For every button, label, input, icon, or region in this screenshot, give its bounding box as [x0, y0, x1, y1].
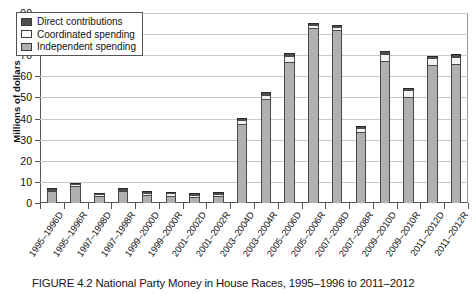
- stacked-bar[interactable]: [237, 118, 248, 203]
- bar-segment-independent-spending: [284, 62, 295, 203]
- bar-segment-independent-spending: [427, 65, 438, 203]
- legend-item-direct-contributions: Direct contributions: [21, 16, 136, 27]
- legend-swatch-icon: [21, 18, 32, 26]
- bar-segment-independent-spending: [118, 191, 129, 203]
- y-axis-tick-label: 10: [20, 176, 32, 188]
- bar-segment-independent-spending: [451, 64, 462, 203]
- bar-slot[interactable]: [206, 13, 230, 203]
- x-axis-tick: [325, 203, 326, 209]
- stacked-bar[interactable]: [118, 188, 129, 203]
- bar-slot[interactable]: [254, 13, 278, 203]
- bar-slot[interactable]: [159, 13, 183, 203]
- bar-slot[interactable]: [397, 13, 421, 203]
- y-axis-tick-label: 20: [20, 155, 32, 167]
- x-axis-tick: [159, 203, 160, 209]
- bar-segment-independent-spending: [166, 196, 177, 203]
- bar-segment-independent-spending: [403, 97, 414, 203]
- legend-swatch-icon: [21, 30, 32, 38]
- x-axis-tick: [278, 203, 279, 209]
- bar-segment-independent-spending: [47, 191, 58, 203]
- bar-slot[interactable]: [325, 13, 349, 203]
- y-axis-tick-label: 50: [20, 91, 32, 103]
- bar-segment-independent-spending: [380, 61, 391, 204]
- legend-label: Direct contributions: [37, 16, 123, 27]
- stacked-bar[interactable]: [166, 192, 177, 204]
- y-axis-tick-label: 0: [26, 197, 32, 209]
- bar-slot[interactable]: [373, 13, 397, 203]
- stacked-bar[interactable]: [308, 23, 319, 203]
- x-axis-tick: [397, 203, 398, 209]
- stacked-bar[interactable]: [70, 183, 81, 203]
- bar-segment-independent-spending: [308, 28, 319, 203]
- bar-segment-independent-spending: [237, 124, 248, 203]
- stacked-bar[interactable]: [356, 126, 367, 203]
- bar-slot[interactable]: [302, 13, 326, 203]
- legend-swatch-icon: [21, 43, 32, 51]
- x-axis-tick: [206, 203, 207, 209]
- stacked-bar[interactable]: [451, 54, 462, 203]
- x-axis-tick: [302, 203, 303, 209]
- x-axis-tick: [88, 203, 89, 209]
- stacked-bar[interactable]: [403, 88, 414, 203]
- bar-segment-coordinated-spending: [403, 90, 414, 97]
- x-axis-tick: [468, 203, 469, 209]
- x-axis-tick: [230, 203, 231, 209]
- stacked-bar[interactable]: [332, 25, 343, 203]
- bar-slot[interactable]: [278, 13, 302, 203]
- x-axis-tick: [111, 203, 112, 209]
- bar-slot[interactable]: [444, 13, 468, 203]
- y-axis-tick-label: 40: [20, 113, 32, 125]
- stacked-bar[interactable]: [284, 53, 295, 203]
- bar-segment-independent-spending: [94, 196, 105, 203]
- x-axis-tick: [349, 203, 350, 209]
- x-axis-tick: [373, 203, 374, 209]
- x-axis-tick: [444, 203, 445, 209]
- bar-segment-coordinated-spending: [451, 57, 462, 64]
- x-axis-tick: [135, 203, 136, 209]
- bar-slot[interactable]: [349, 13, 373, 203]
- bar-slot[interactable]: [420, 13, 444, 203]
- stacked-bar[interactable]: [94, 193, 105, 203]
- stacked-bar[interactable]: [47, 188, 58, 203]
- legend-label: Independent spending: [37, 41, 136, 52]
- figure-caption: FIGURE 4.2 National Party Money in House…: [32, 277, 415, 289]
- x-axis-tick: [40, 203, 41, 209]
- x-axis-tick: [183, 203, 184, 209]
- stacked-bar[interactable]: [427, 56, 438, 203]
- legend-item-independent-spending: Independent spending: [21, 41, 136, 52]
- legend-item-coordinated-spending: Coordinated spending: [21, 29, 136, 40]
- bar-segment-independent-spending: [332, 30, 343, 203]
- bar-segment-independent-spending: [356, 132, 367, 203]
- bar-segment-independent-spending: [213, 196, 224, 203]
- x-axis-tick: [64, 203, 65, 209]
- stacked-bar[interactable]: [213, 192, 224, 203]
- stacked-bar[interactable]: [189, 193, 200, 203]
- bar-slot[interactable]: [183, 13, 207, 203]
- y-axis-tick-label: 30: [20, 134, 32, 146]
- legend-label: Coordinated spending: [37, 29, 135, 40]
- bar-segment-independent-spending: [189, 197, 200, 203]
- y-axis-tick-label: 60: [20, 70, 32, 82]
- bar-segment-independent-spending: [261, 99, 272, 204]
- x-axis-tick: [420, 203, 421, 209]
- figure-container: Millions of dollars 0102030405060708090 …: [0, 0, 475, 294]
- stacked-bar[interactable]: [142, 191, 153, 203]
- bar-slot[interactable]: [230, 13, 254, 203]
- bar-segment-independent-spending: [70, 186, 81, 203]
- x-axis-tick: [254, 203, 255, 209]
- stacked-bar[interactable]: [261, 92, 272, 203]
- stacked-bar[interactable]: [380, 51, 391, 203]
- bar-segment-independent-spending: [142, 195, 153, 203]
- chart-legend: Direct contributions Coordinated spendin…: [16, 12, 143, 56]
